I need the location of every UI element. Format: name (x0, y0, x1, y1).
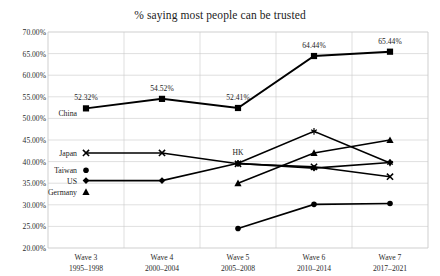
series-label-china: China (58, 108, 77, 117)
series-china (83, 49, 393, 112)
data-point-marker-circle (235, 226, 241, 232)
annotation-hk: HK (233, 148, 244, 157)
data-point-marker-circle (311, 202, 317, 208)
series-label-japan: Japan (59, 148, 77, 157)
data-point-marker-triangle (82, 188, 89, 195)
x-tick-wave: Wave 5 (227, 253, 250, 262)
data-label: 52.32% (74, 93, 97, 102)
series-line (238, 131, 390, 163)
x-tick-years: 2017–2021 (373, 264, 407, 275)
plot-area (0, 0, 440, 276)
data-point-marker-circle (83, 167, 89, 173)
gridlines (48, 32, 428, 248)
data-label: 52.41% (226, 93, 249, 102)
series-label-germany: Germany (48, 187, 77, 196)
series-hk (235, 128, 393, 167)
series-taiwan (235, 201, 393, 232)
data-point-marker-square (311, 53, 317, 59)
x-axis-tick-label: Wave 31995–1998 (69, 253, 103, 274)
x-axis-tick-label: Wave 42000–2004 (145, 253, 179, 274)
x-tick-wave: Wave 7 (379, 253, 402, 262)
x-axis-tick-label: Wave 72017–2021 (373, 253, 407, 274)
data-point-marker-circle (387, 201, 393, 207)
data-point-marker-square (159, 96, 165, 102)
x-tick-years: 2010–2014 (297, 264, 331, 275)
series-label-taiwan: Taiwan (54, 166, 77, 175)
data-point-marker-square (235, 105, 241, 111)
data-point-marker-diamond (311, 165, 318, 172)
data-label: 54.52% (150, 84, 173, 93)
x-tick-years: 2005–2008 (221, 264, 255, 275)
data-label: 65.44% (378, 37, 401, 46)
x-axis-tick-label: Wave 52005–2008 (221, 253, 255, 274)
series-line (238, 204, 390, 229)
x-tick-years: 1995–1998 (69, 264, 103, 275)
chart-container: % saying most people can be trusted 70.0… (0, 0, 440, 276)
x-tick-wave: Wave 6 (303, 253, 326, 262)
x-axis-tick-label: Wave 62010–2014 (297, 253, 331, 274)
data-label: 64.44% (302, 41, 325, 50)
data-point-marker-square (387, 49, 393, 55)
x-tick-years: 2000–2004 (145, 264, 179, 275)
series-label-us: US (67, 176, 77, 185)
x-tick-wave: Wave 4 (151, 253, 174, 262)
data-point-marker-square (83, 105, 89, 111)
x-tick-wave: Wave 3 (75, 253, 98, 262)
